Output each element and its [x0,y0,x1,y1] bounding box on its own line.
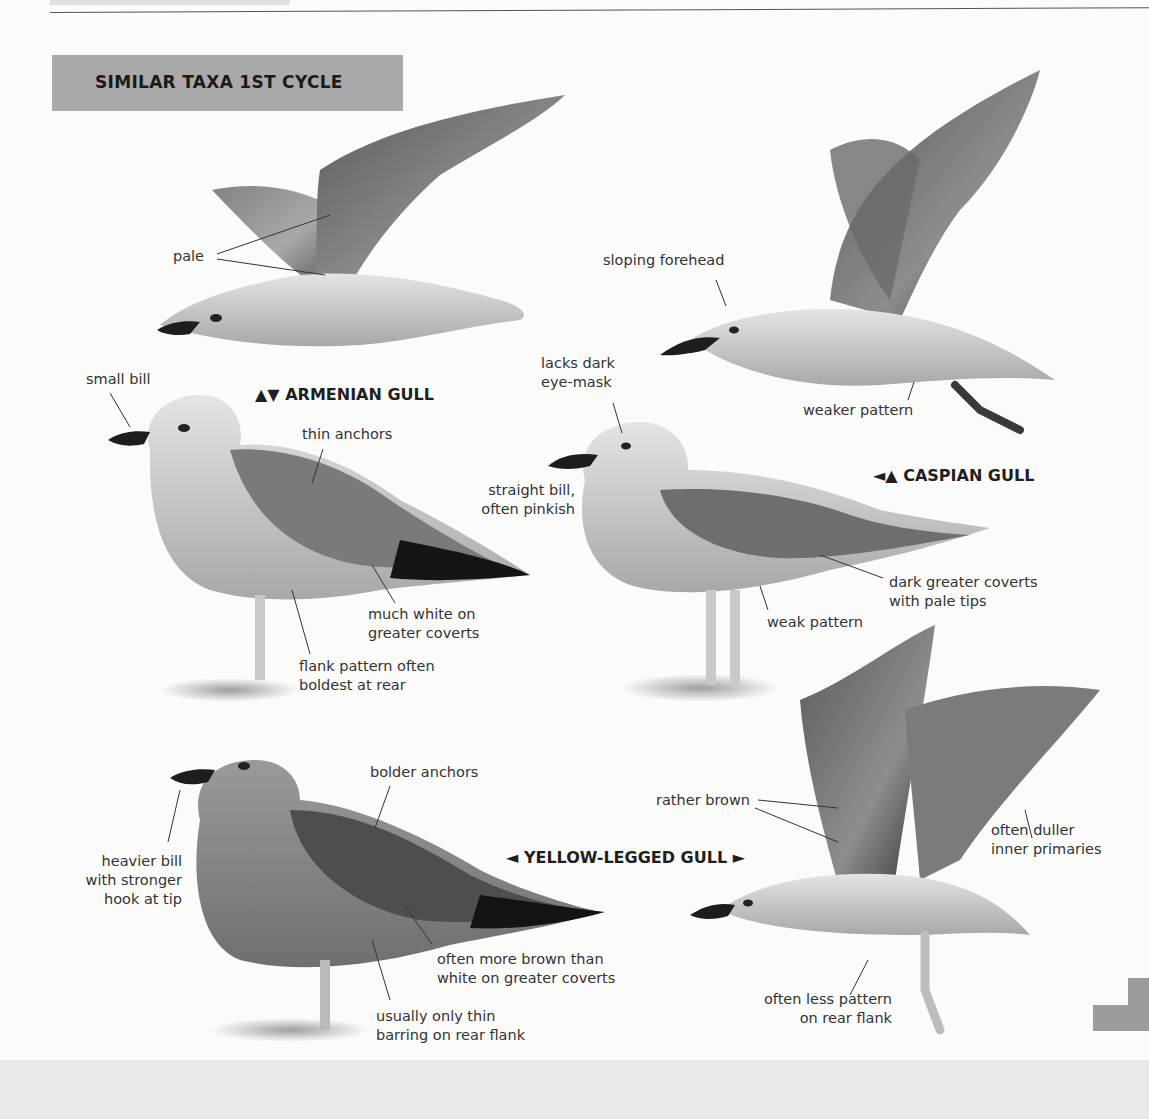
caspian-gull-flight-photo [660,70,1055,430]
label-thin-anchors: thin anchors [302,425,392,444]
label-rather-brown: rather brown [656,791,750,810]
label-lacks-dark-eye-mask: lacks dark eye-mask [541,354,615,392]
label-more-brown: often more brown than white on greater c… [437,950,615,988]
armenian-gull-flight-photo [157,95,565,346]
page-thumb-tab-upper [1128,978,1149,1031]
label-duller-inner-primaries: often duller inner primaries [991,821,1102,859]
yellow-legged-gull-standing-photo [170,760,605,1042]
label-thin-barring: usually only thin barring on rear flank [376,1007,525,1045]
label-pale: pale [173,247,204,266]
label-straight-bill: straight bill, often pinkish [478,481,575,519]
label-less-pattern: often less pattern on rear flank [740,990,892,1028]
label-much-white: much white on greater coverts [368,605,479,643]
label-small-bill: small bill [86,370,151,389]
label-bolder-anchors: bolder anchors [370,763,478,782]
species-yellow-legged-gull: ◄ YELLOW-LEGGED GULL ► [506,848,745,867]
label-weaker-pattern: weaker pattern [803,401,913,420]
label-flank-pattern: flank pattern often boldest at rear [299,657,435,695]
label-sloping-forehead: sloping forehead [603,251,724,270]
label-weak-pattern: weak pattern [767,613,863,632]
label-dark-greater-coverts: dark greater coverts with pale tips [889,573,1037,611]
label-heavier-bill: heavier bill with stronger hook at tip [70,852,182,909]
species-armenian-gull: ▲▼ ARMENIAN GULL [255,385,434,404]
species-caspian-gull: ◄▲ CASPIAN GULL [873,466,1034,485]
